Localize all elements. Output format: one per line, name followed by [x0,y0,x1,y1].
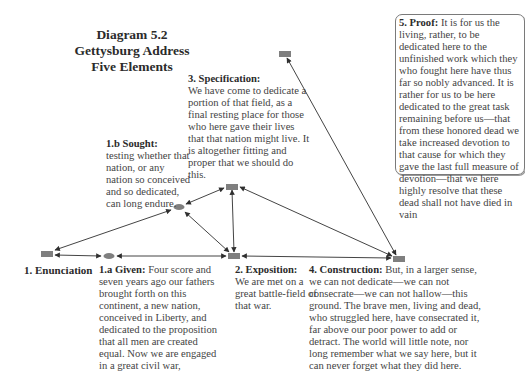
sought-block: 1.b Sought: testing whether that nation,… [106,138,192,210]
construction-text: But, in a larger sense, we can not dedic… [309,264,481,371]
link-specification-construction [240,187,392,256]
given-text: Four score and seven years ago our fathe… [99,264,217,371]
exposition-text: We are met on a great battle-field of th… [235,276,319,312]
given-block: 1.a Given: Four score and seven years ag… [99,264,225,372]
specification-heading: 3. Specification: [188,73,312,85]
node-proof [279,51,291,57]
link-exposition-construction [242,256,391,258]
link-sought-exposition [185,212,229,252]
specification-text: We have come to dedicate a portion of th… [188,85,312,181]
sought-text: testing whether that nation, or any nati… [106,150,192,210]
node-exposition [228,253,240,259]
node-given [104,253,115,259]
exposition-block: 2. Exposition: We are met on a great bat… [235,264,319,312]
node-construction [393,256,405,262]
node-specification [226,184,238,190]
given-heading: 1.a Given: [99,264,146,275]
link-specification-exposition [232,190,234,252]
specification-block: 3. Specification: We have come to dedica… [188,73,312,181]
proof-text: It is for us the living, rather, to be d… [399,17,519,220]
link-enunciation-sought [55,210,171,250]
proof-block: 5. Proof: It is for us the living, rathe… [395,14,525,175]
link-enunciation-given [55,255,101,256]
construction-block: 4. Construction: But, in a larger sense,… [309,264,483,372]
sought-heading: 1.b Sought: [106,138,192,150]
node-enunciation [41,251,53,257]
exposition-heading: 2. Exposition: [235,264,319,276]
proof-heading: 5. Proof: [399,17,438,28]
enunciation-label: 1. Enunciation [24,264,92,276]
construction-heading: 4. Construction: [309,264,383,275]
